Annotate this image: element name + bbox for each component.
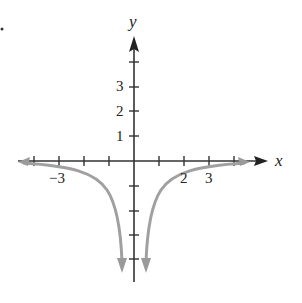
right-down-arrow-icon <box>141 258 151 273</box>
left-branch <box>24 163 122 262</box>
left-end-arrow-icon <box>18 157 30 166</box>
function-graph: x y −3 2 3 3 2 1 <box>0 0 302 303</box>
x-tick-label-neg3: −3 <box>49 170 65 186</box>
left-down-arrow-icon <box>117 258 127 273</box>
y-axis-label: y <box>127 12 137 31</box>
right-end-arrow-icon <box>238 157 250 166</box>
x-axis-arrow-icon <box>254 156 268 166</box>
y-tick-label-1: 1 <box>116 128 124 144</box>
x-tick-label-3: 3 <box>205 170 213 186</box>
x-tick-label-2: 2 <box>180 170 188 186</box>
marker-dot <box>1 28 4 31</box>
y-tick-label-2: 2 <box>116 103 124 119</box>
right-branch <box>146 163 244 262</box>
x-axis-label: x <box>274 151 283 170</box>
y-tick-label-3: 3 <box>116 78 124 94</box>
